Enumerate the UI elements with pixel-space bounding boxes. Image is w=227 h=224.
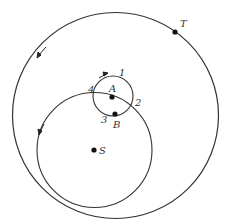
label-S: S (99, 145, 106, 156)
label-B: B (112, 119, 120, 130)
point-B-dot (112, 111, 117, 116)
diagram-svg: T A B S 1 2 3 4 (0, 0, 227, 224)
point-A-dot (109, 94, 114, 99)
inner-orbit-arrow-icon (38, 124, 44, 135)
orbit-diagram: T A B S 1 2 3 4 (0, 0, 227, 224)
label-T: T (180, 18, 188, 29)
point-T-dot (172, 29, 177, 34)
label-position-1: 1 (119, 67, 125, 78)
point-S-dot (91, 147, 96, 152)
outer-orbit-arrow-icon (37, 47, 46, 58)
label-A: A (108, 83, 116, 94)
label-position-4: 4 (87, 84, 94, 95)
label-position-2: 2 (134, 97, 141, 108)
label-position-3: 3 (101, 114, 107, 125)
